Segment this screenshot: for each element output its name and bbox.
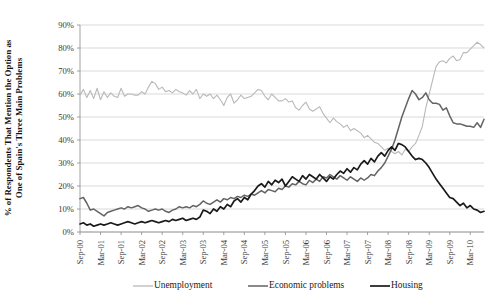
x-tick-label: Mar-03 bbox=[178, 240, 188, 266]
axes bbox=[77, 25, 484, 235]
x-tick-label: Sep-04 bbox=[239, 239, 249, 264]
chart-legend: UnemploymentEconomic problemsHousing bbox=[133, 280, 423, 290]
y-tick-label: 70% bbox=[58, 66, 74, 76]
x-tick-label: Sep-01 bbox=[116, 240, 126, 264]
x-tick-label: Mar-10 bbox=[465, 240, 475, 266]
y-axis-title-line1: % of Respondents That Mention the Option… bbox=[3, 39, 13, 216]
series-line-unemployment bbox=[80, 42, 484, 155]
y-tick-label: 0% bbox=[63, 227, 74, 237]
x-tick-label: Mar-07 bbox=[342, 239, 352, 265]
x-tick-label: Sep-02 bbox=[157, 240, 167, 264]
y-axis-title-line2: One of Spain's Three Main Problems bbox=[14, 57, 24, 198]
legend-label-unemployment: Unemployment bbox=[154, 280, 213, 290]
y-tick-label: 10% bbox=[58, 204, 74, 214]
x-tick-label: Sep-00 bbox=[75, 240, 85, 264]
y-tick-label: 20% bbox=[58, 181, 74, 191]
series-line-housing bbox=[80, 143, 484, 226]
y-tick-label: 40% bbox=[58, 135, 74, 145]
x-tick-label: Sep-06 bbox=[322, 239, 332, 264]
x-tick-label: Mar-08 bbox=[383, 240, 393, 266]
y-tick-label: 60% bbox=[58, 89, 74, 99]
line-chart: 0%10%20%30%40%50%60%70%80%90% Sep-00Mar-… bbox=[0, 0, 495, 304]
x-tick-label: Sep-08 bbox=[404, 240, 414, 264]
x-tick-label: Mar-05 bbox=[260, 240, 270, 266]
x-tick-label: Mar-01 bbox=[96, 240, 106, 266]
chart-container: 0%10%20%30%40%50%60%70%80%90% Sep-00Mar-… bbox=[0, 0, 495, 304]
x-tick-label: Sep-07 bbox=[363, 239, 373, 264]
legend-label-housing: Housing bbox=[391, 280, 423, 290]
y-tick-label: 30% bbox=[58, 158, 74, 168]
x-tick-label: Sep-03 bbox=[198, 240, 208, 264]
y-tick-label: 80% bbox=[58, 43, 74, 53]
x-tick-label: Mar-06 bbox=[301, 239, 311, 265]
legend-label-economic-problems: Economic problems bbox=[269, 280, 345, 290]
x-tick-label: Sep-09 bbox=[445, 240, 455, 264]
series-lines bbox=[80, 42, 484, 226]
x-tick-label: Mar-04 bbox=[219, 239, 229, 265]
y-tick-label: 90% bbox=[58, 20, 74, 30]
gridlines bbox=[80, 25, 484, 232]
y-tick-label: 50% bbox=[58, 112, 74, 122]
y-axis-tick-labels: 0%10%20%30%40%50%60%70%80%90% bbox=[58, 20, 74, 237]
series-line-economic-problems bbox=[80, 91, 484, 216]
x-tick-label: Sep-05 bbox=[281, 240, 291, 264]
x-tick-label: Mar-09 bbox=[424, 240, 434, 266]
x-axis-tick-labels: Sep-00Mar-01Sep-01Mar-02Sep-02Mar-03Sep-… bbox=[75, 239, 475, 265]
x-tick-label: Mar-02 bbox=[137, 240, 147, 266]
